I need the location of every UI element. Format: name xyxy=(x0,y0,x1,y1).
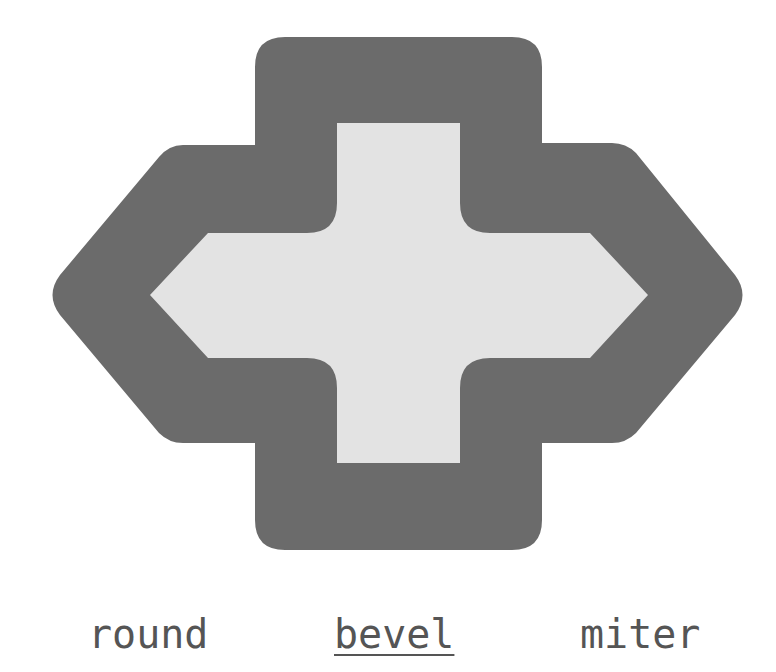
linejoin-options: round bevel miter xyxy=(0,600,776,672)
option-bevel[interactable]: bevel xyxy=(334,610,454,658)
linejoin-canvas xyxy=(0,0,776,600)
option-miter[interactable]: miter xyxy=(580,610,700,658)
option-round[interactable]: round xyxy=(88,610,208,658)
